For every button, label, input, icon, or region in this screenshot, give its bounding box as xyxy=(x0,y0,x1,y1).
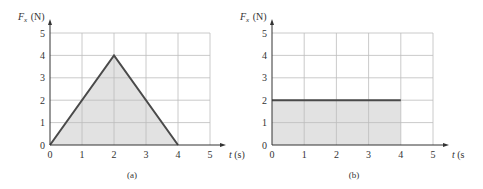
y-tick-label: 2 xyxy=(262,95,267,106)
x-tick-label: 4 xyxy=(398,149,403,160)
y-tick-label: 1 xyxy=(40,117,45,128)
y-tick-label: 3 xyxy=(262,72,267,83)
y-tick-label: 4 xyxy=(262,50,267,61)
chart-panel-a: 012345012345Fx (N)t (s)(a) xyxy=(17,11,245,180)
y-tick-label: 0 xyxy=(40,140,45,151)
y-axis-label: Fx (N) xyxy=(239,11,267,24)
x-tick-label: 1 xyxy=(302,149,307,160)
y-tick-label: 5 xyxy=(262,28,267,39)
y-tick-label: 3 xyxy=(40,72,45,83)
x-tick-label: 3 xyxy=(366,149,371,160)
figure: 012345012345Fx (N)t (s)(a)012345012345Fx… xyxy=(0,0,483,189)
x-tick-label: 4 xyxy=(176,149,181,160)
x-tick-label: 5 xyxy=(431,149,436,160)
panel-caption: (b) xyxy=(349,170,360,180)
x-tick-label: 5 xyxy=(208,149,213,160)
x-tick-label: 1 xyxy=(80,149,85,160)
y-axis-arrow-icon xyxy=(48,19,52,25)
x-tick-label: 0 xyxy=(48,149,53,160)
panel-caption: (a) xyxy=(127,170,137,180)
y-tick-label: 4 xyxy=(40,50,45,61)
x-axis-label: t (s xyxy=(452,149,465,161)
y-tick-label: 0 xyxy=(262,140,267,151)
x-tick-label: 0 xyxy=(270,149,275,160)
x-axis-label: t (s) xyxy=(229,149,245,161)
y-tick-label: 2 xyxy=(40,95,45,106)
x-axis-arrow-icon xyxy=(443,143,449,147)
chart-panel-b: 012345012345Fx (N)t (s(b) xyxy=(239,11,465,180)
y-axis-arrow-icon xyxy=(270,19,274,25)
x-tick-label: 2 xyxy=(334,149,339,160)
x-tick-label: 3 xyxy=(144,149,149,160)
x-tick-label: 2 xyxy=(112,149,117,160)
y-tick-label: 1 xyxy=(262,117,267,128)
y-axis-label: Fx (N) xyxy=(17,11,45,24)
x-axis-arrow-icon xyxy=(220,143,226,147)
y-tick-label: 5 xyxy=(40,28,45,39)
